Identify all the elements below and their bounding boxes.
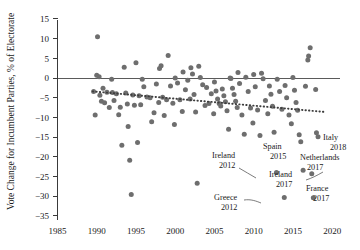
y-tick-label: −35 [35, 211, 50, 221]
data-point [228, 76, 233, 81]
data-point [232, 92, 237, 97]
data-point [112, 98, 117, 103]
annotation-ireland-2012: Ireland2012 [212, 151, 235, 170]
annotations: Italy2018Netherlands2017Spain2015Ireland… [212, 133, 346, 212]
data-point [309, 171, 314, 176]
data-point [313, 87, 318, 92]
data-point [198, 75, 203, 80]
data-point [97, 93, 102, 98]
data-point [180, 109, 185, 114]
annotation-line: 2012 [219, 161, 235, 170]
data-point [107, 105, 112, 110]
data-point [132, 103, 137, 108]
y-axis-title: Vote Change for Incumbent Parties, % of … [6, 13, 16, 210]
data-point [242, 132, 247, 137]
data-point [265, 111, 270, 116]
data-point [181, 70, 186, 75]
data-point [127, 158, 132, 163]
data-point [168, 83, 173, 88]
data-point [170, 101, 175, 106]
data-point [185, 78, 190, 83]
x-tick-label: 2005 [205, 226, 224, 236]
chart-canvas: Vote Change for Incumbent Parties, % of … [0, 0, 360, 250]
data-point [220, 87, 225, 92]
data-point [102, 100, 107, 105]
data-point [190, 72, 195, 77]
data-point [246, 89, 251, 94]
data-point [257, 133, 262, 138]
data-point [188, 65, 193, 70]
y-tick-label: −5 [39, 93, 49, 103]
y-axis-ticks: 151050−5−10−15−20−25−30−35 [35, 14, 58, 221]
data-point [93, 113, 98, 118]
data-point [129, 192, 134, 197]
data-point [162, 113, 167, 118]
annotation-line: 2017 [307, 163, 323, 172]
data-point [118, 105, 123, 110]
annotation-line: Ireland [269, 170, 292, 179]
x-tick-label: 2010 [245, 226, 264, 236]
data-point [218, 103, 223, 108]
data-point [204, 85, 209, 90]
data-point [172, 122, 177, 127]
annotation-line: 2012 [221, 203, 237, 212]
data-point [225, 108, 230, 113]
data-point [141, 84, 146, 89]
data-point [109, 77, 114, 82]
x-tick-label: 1995 [127, 226, 146, 236]
data-point [226, 127, 231, 132]
x-axis-ticks: 19851990199520002005201020152020 [49, 226, 342, 236]
data-point [283, 83, 288, 88]
x-tick-label: 1990 [88, 226, 107, 236]
data-point [125, 102, 130, 107]
data-point [192, 92, 197, 97]
annotation-line: 2017 [276, 180, 292, 189]
annotation-line: Greece [214, 193, 238, 202]
annotation-line: Italy [323, 133, 339, 142]
data-point [152, 110, 157, 115]
data-point [195, 181, 200, 186]
data-point [268, 92, 273, 97]
x-tick-label: 2015 [284, 226, 303, 236]
data-point [275, 77, 280, 82]
annotation-leader-line [244, 200, 261, 203]
y-tick-label: −10 [35, 113, 50, 123]
data-point [193, 109, 198, 114]
data-point [211, 111, 216, 116]
data-point [135, 140, 140, 145]
data-point [251, 72, 256, 77]
data-point [255, 107, 260, 112]
annotation-line: Ireland [212, 151, 235, 160]
data-point [301, 168, 306, 173]
annotation-line: Spain [263, 142, 282, 151]
data-point [230, 86, 235, 91]
data-point [138, 102, 143, 107]
data-point [133, 60, 138, 65]
data-point [294, 100, 299, 105]
data-point [209, 91, 214, 96]
data-point [214, 89, 219, 94]
y-tick-label: −20 [35, 152, 50, 162]
data-point [154, 81, 159, 86]
y-tick-label: −25 [35, 172, 50, 182]
annotation-line: 2017 [313, 194, 329, 203]
x-tick-label: 2020 [323, 226, 342, 236]
data-point [303, 84, 308, 89]
data-point [250, 120, 255, 125]
data-point [166, 53, 171, 58]
data-point [97, 74, 102, 79]
annotation-italy-2018: Italy2018 [323, 133, 346, 152]
data-point [243, 75, 248, 80]
y-tick-label: 15 [40, 14, 50, 24]
data-point [292, 88, 297, 93]
data-point [239, 113, 244, 118]
annotation-line: France [306, 184, 329, 193]
data-point [306, 53, 311, 58]
data-point [116, 112, 121, 117]
data-point [233, 99, 238, 104]
annotation-spain-2015: Spain2015 [263, 142, 286, 161]
data-point [289, 121, 294, 126]
annotation-ireland-2017: Ireland2017 [269, 170, 292, 189]
data-point [119, 143, 124, 148]
data-point [235, 105, 240, 110]
